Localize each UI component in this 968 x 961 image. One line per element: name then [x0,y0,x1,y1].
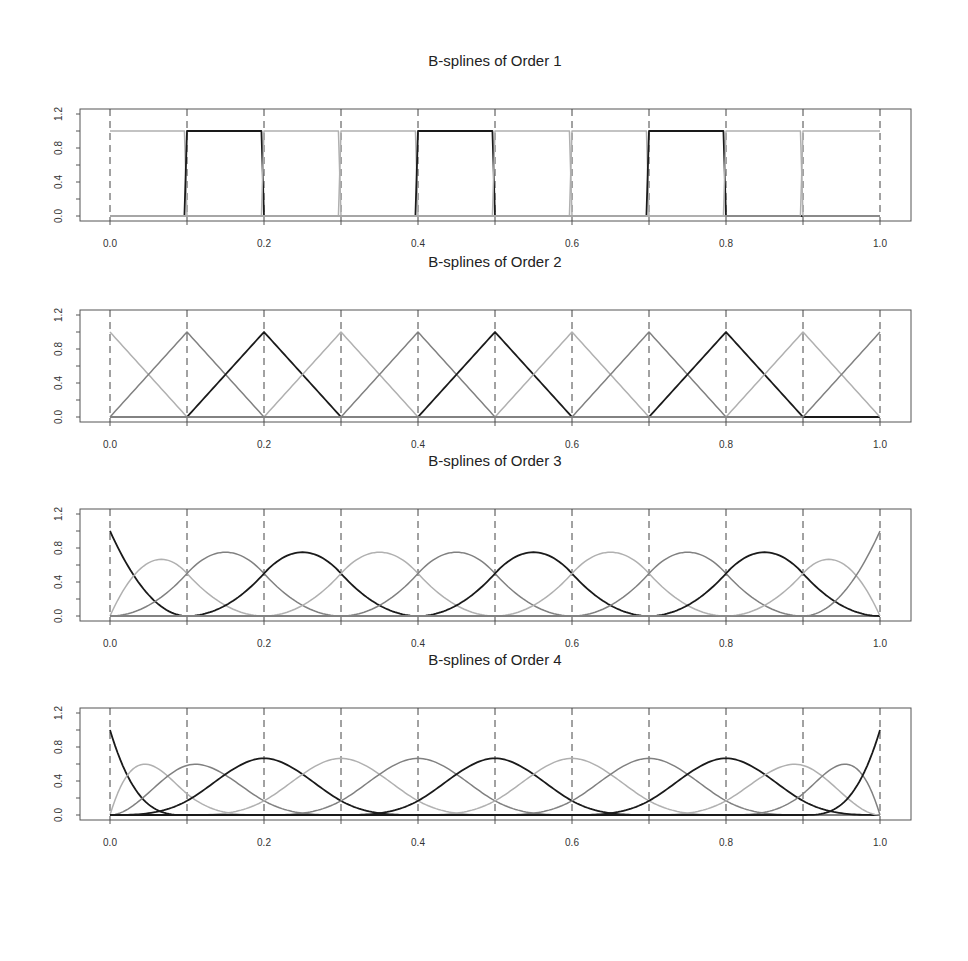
x-tick-label: 0.2 [257,837,271,848]
x-tick-label: 0.6 [565,837,579,848]
x-tick-label: 0.4 [411,837,425,848]
x-tick-label: 0.8 [719,837,733,848]
x-tick-label: 1.0 [873,837,887,848]
y-tick-label: 0.4 [53,774,64,788]
y-tick-label: 0.8 [53,740,64,754]
y-tick-label: 0.0 [53,808,64,822]
y-tick-label: 1.2 [53,706,64,720]
x-tick-label: 0.0 [103,837,117,848]
bspline-plot-order-4: 0.00.20.40.60.81.00.00.40.81.2 [0,0,968,880]
